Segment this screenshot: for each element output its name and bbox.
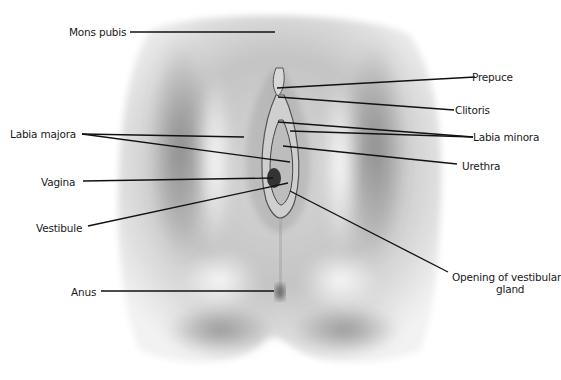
label-vestibular-gland-line1: Opening of vestibular: [452, 271, 561, 283]
label-prepuce: Prepuce: [472, 71, 513, 83]
label-vestibular-gland-line2: gland: [496, 283, 524, 295]
label-mons-pubis: Mons pubis: [69, 26, 126, 38]
label-urethra: Urethra: [462, 160, 500, 172]
label-labia-minora: Labia minora: [473, 131, 539, 143]
label-labia-majora: Labia majora: [10, 128, 76, 140]
label-anus: Anus: [71, 286, 96, 298]
label-vestibule: Vestibule: [36, 222, 82, 234]
label-vagina: Vagina: [41, 176, 75, 188]
label-clitoris: Clitoris: [455, 104, 490, 116]
